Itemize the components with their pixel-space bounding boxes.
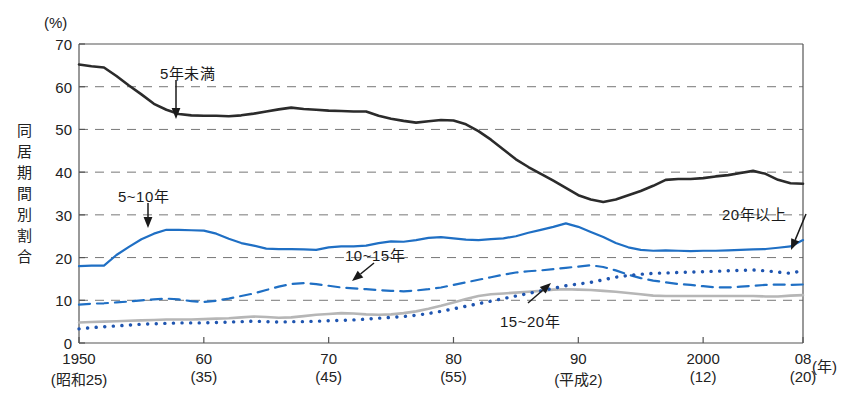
x-tick-year: 70 <box>315 350 342 367</box>
x-tick-era: (平成2) <box>554 368 602 389</box>
x-tick-era: (55) <box>440 368 467 385</box>
x-tick-label: 80(55) <box>440 350 467 385</box>
ann-20plus-label: 20年以上 <box>722 203 786 224</box>
x-tick-era: (昭和25) <box>51 368 108 389</box>
ann-15to20-label: 15~20年 <box>500 310 560 331</box>
y-tick-label: 30 <box>38 206 72 223</box>
series-line-1 <box>79 223 803 266</box>
ann-5to10-arrow-head <box>144 217 153 228</box>
ann-5mi-label: 5年未満 <box>160 62 215 83</box>
x-tick-year: 1950 <box>51 350 108 367</box>
x-tick-year: 80 <box>440 350 467 367</box>
x-tick-year: 60 <box>190 350 217 367</box>
y-tick-label: 70 <box>38 36 72 53</box>
axes-frame <box>79 44 803 343</box>
chart-figure: (%) 同 居 期 間 別 割 合 010203040506070 1950(昭… <box>0 0 844 405</box>
x-tick-label: 90(平成2) <box>554 350 602 389</box>
x-tick-year: 90 <box>554 350 602 367</box>
series-line-3 <box>79 289 803 322</box>
y-tick-label: 40 <box>38 164 72 181</box>
x-tick-label: 2000(12) <box>686 350 719 385</box>
x-tick-era: (35) <box>190 368 217 385</box>
y-tick-label: 60 <box>38 78 72 95</box>
ann-5to10-label: 5~10年 <box>118 185 169 206</box>
annotation-arrows <box>144 80 806 303</box>
data-series <box>79 65 803 329</box>
x-tick-era: (12) <box>686 368 719 385</box>
x-tick-label: 60(35) <box>190 350 217 385</box>
ann-20plus-arrow-shaft <box>795 214 806 240</box>
ann-20plus-arrow-head <box>791 238 799 250</box>
y-tick-label: 20 <box>38 249 72 266</box>
series-line-0 <box>79 65 803 203</box>
y-tick-label: 10 <box>38 292 72 309</box>
x-tick-marks <box>79 44 803 343</box>
y-tick-label: 50 <box>38 121 72 138</box>
x-tick-label: 1950(昭和25) <box>51 350 108 389</box>
ann-10to15-label: 10~15年 <box>345 244 405 265</box>
y-tick-label: 0 <box>38 335 72 352</box>
x-tick-label: 70(45) <box>315 350 342 385</box>
x-tick-year: 2000 <box>686 350 719 367</box>
x-tick-era: (45) <box>315 368 342 385</box>
x-axis-unit: (年) <box>812 355 837 376</box>
